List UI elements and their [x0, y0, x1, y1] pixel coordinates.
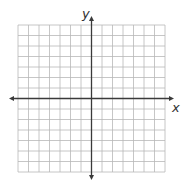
axes	[9, 16, 174, 180]
y-axis-label: y	[82, 7, 90, 20]
coordinate-grid	[0, 0, 188, 180]
coordinate-plane: y x	[0, 0, 188, 180]
y-axis-bottom-arrow-icon	[89, 175, 94, 180]
x-axis-label: x	[172, 101, 180, 114]
x-axis-left-arrow-icon	[9, 96, 14, 101]
